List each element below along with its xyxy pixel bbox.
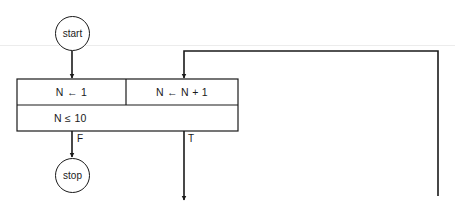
init-cell: N ← 1 (17, 79, 126, 105)
condition-label: N ≤ 10 (54, 112, 87, 124)
edge-loop-return (184, 51, 438, 196)
flowchart-canvas: start N ← 1 N ← N + 1 N ≤ 10 F T stop (0, 0, 455, 209)
condition-cell: N ≤ 10 (54, 105, 87, 131)
stop-node-label: stop (63, 170, 82, 181)
false-branch-label: F (77, 133, 83, 144)
start-node: start (55, 16, 90, 51)
true-branch-label: T (188, 133, 194, 144)
increment-label: N ← N + 1 (156, 86, 208, 98)
init-label: N ← 1 (56, 86, 87, 98)
stop-node: stop (55, 158, 90, 193)
increment-cell: N ← N + 1 (126, 79, 238, 105)
start-node-label: start (63, 28, 82, 39)
